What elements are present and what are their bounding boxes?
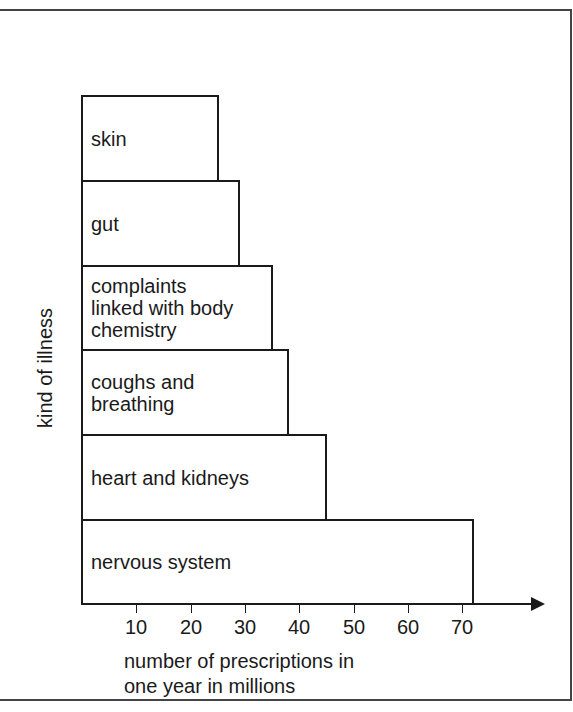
x-tick-label: 60 — [397, 616, 419, 638]
bar-label: complaints linked with body chemistry — [91, 275, 233, 341]
x-tick-label: 30 — [234, 616, 256, 638]
x-tick — [408, 605, 409, 613]
x-tick-label: 70 — [451, 616, 473, 638]
x-tick-label: 20 — [180, 616, 202, 638]
x-tick-label: 10 — [125, 616, 147, 638]
bar-5: nervous system — [81, 519, 474, 605]
bar-label: nervous system — [91, 551, 231, 573]
bar-label: gut — [91, 213, 119, 235]
x-tick — [245, 605, 246, 613]
bar-2: complaints linked with body chemistry — [81, 265, 273, 351]
y-axis-title: kind of illness — [34, 308, 56, 428]
frame-right — [570, 9, 572, 701]
x-tick — [354, 605, 355, 613]
bar-label: skin — [91, 128, 127, 150]
frame-top — [0, 9, 572, 11]
bar-4: heart and kidneys — [81, 434, 327, 521]
x-axis-arrow-icon — [531, 597, 545, 611]
x-axis-title: number of prescriptions in one year in m… — [124, 649, 354, 699]
x-tick-label: 50 — [343, 616, 365, 638]
x-tick — [299, 605, 300, 613]
x-tick-label: 40 — [288, 616, 310, 638]
bar-label: coughs and breathing — [91, 371, 194, 415]
x-tick — [191, 605, 192, 613]
bar-3: coughs and breathing — [81, 349, 289, 436]
bar-0: skin — [81, 95, 219, 182]
x-tick — [136, 605, 137, 613]
x-tick — [462, 605, 463, 613]
bar-1: gut — [81, 180, 240, 267]
frame-bottom — [0, 699, 572, 701]
bar-label: heart and kidneys — [91, 467, 249, 489]
